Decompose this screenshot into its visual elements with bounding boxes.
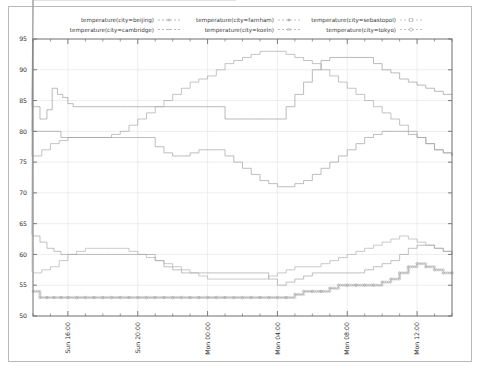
legend-item[interactable]: temperature(city=koeln) [205,27,300,34]
legend-item[interactable]: temperature(city=farnham) [196,17,300,24]
chart-window: 50556065707580859095 Sun 16:00Sun 20:00M… [0,0,482,377]
legend-item-label: temperature(city=sebastopol) [311,17,396,24]
legend-item-label: temperature(city=tokyo) [326,27,396,34]
x-tick-label: Mon 04:00 [274,322,281,355]
y-tick-label: 55 [19,281,27,288]
x-tick-label: Sun 20:00 [134,322,141,354]
legend-item-label: temperature(city=farnham) [196,17,274,24]
y-tick-label: 70 [19,189,27,196]
legend-item-label: temperature(city=beijing) [81,17,154,24]
y-tick-label: 75 [19,158,27,165]
x-axis-tick-labels: Sun 16:00Sun 20:00Mon 00:00Mon 04:00Mon … [64,322,420,355]
legend-marker-icon [287,18,290,21]
y-tick-label: 60 [19,251,27,258]
chart-legend[interactable]: temperature(city=beijing)temperature(cit… [70,17,422,34]
y-axis-tick-labels: 50556065707580859095 [19,35,27,319]
y-tick-label: 95 [19,35,27,42]
y-tick-label: 80 [19,128,27,135]
y-tick-label: 90 [19,66,27,73]
temperature-time-series-chart[interactable]: 50556065707580859095 Sun 16:00Sun 20:00M… [0,0,482,377]
legend-item[interactable]: temperature(city=sebastopol) [311,17,422,24]
x-tick-label: Mon 00:00 [204,322,211,355]
legend-item[interactable]: temperature(city=tokyo) [326,27,422,34]
grid-layer [33,39,452,316]
legend-item[interactable]: temperature(city=cambridge) [70,27,180,34]
x-tick-label: Mon 12:00 [413,322,420,355]
legend-item-label: temperature(city=cambridge) [70,27,154,34]
x-tick-label: Sun 16:00 [64,322,71,354]
legend-marker-icon [167,18,170,21]
x-tick-label: Mon 08:00 [343,322,350,355]
legend-item[interactable]: temperature(city=beijing) [81,17,180,24]
y-tick-label: 65 [19,220,27,227]
legend-item-label: temperature(city=koeln) [205,27,274,34]
y-tick-label: 85 [19,97,27,104]
y-tick-label: 50 [19,312,27,319]
